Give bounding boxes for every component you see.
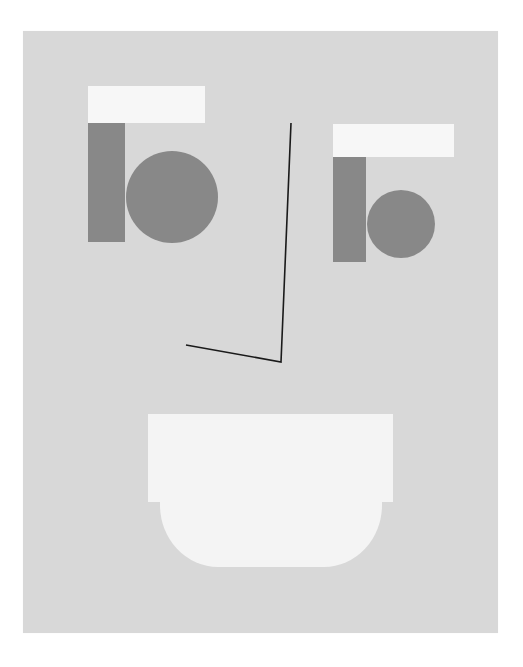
mouth-upper: [148, 414, 393, 502]
mouth-lower: [160, 501, 382, 567]
nose-polyline: [186, 123, 291, 362]
